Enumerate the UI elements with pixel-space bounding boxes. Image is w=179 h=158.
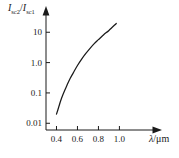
x-axis-title-unit: /μm — [153, 133, 169, 144]
x-axis-tick-label: 0.8 — [93, 135, 104, 144]
y-axis-ticks — [46, 32, 50, 123]
y-axis-title-numerator-subscript: sc2 — [11, 8, 20, 15]
x-axis-tick-label: 1.0 — [114, 135, 125, 144]
y-axis-tick-label: 0.01 — [0, 119, 42, 128]
data-series-curve — [56, 23, 116, 114]
x-axis-tick-label: 0.4 — [51, 135, 62, 144]
x-axis-ticks — [56, 126, 119, 130]
y-axis-title-denominator-subscript: sc1 — [26, 8, 35, 15]
y-axis-tick-label: 1.0 — [0, 58, 42, 67]
y-axis-title: Isc2/Isc1 — [8, 3, 35, 16]
y-axis-tick-label: 10 — [0, 28, 42, 37]
chart-figure: 0.010.11.010 0.40.60.81.0 Isc2/Isc1 λ/μm — [0, 0, 179, 158]
x-axis-tick-label: 0.6 — [72, 135, 83, 144]
x-axis-title: λ/μm — [149, 134, 169, 144]
y-axis-tick-label: 0.1 — [0, 88, 42, 97]
y-axis-arrow-icon — [43, 6, 50, 16]
